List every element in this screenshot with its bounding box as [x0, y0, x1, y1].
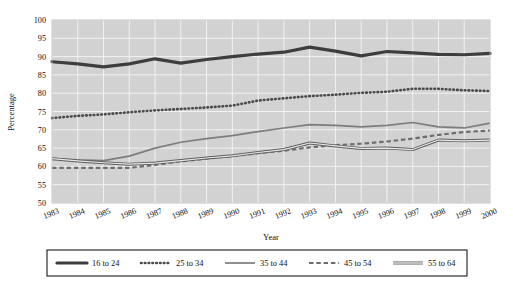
- y-axis-title: Percentage: [6, 93, 16, 131]
- chart-container: 10095908580757065605550 1983198419851986…: [0, 0, 513, 288]
- y-tick-label: 75: [38, 108, 46, 117]
- legend-label: 25 to 34: [176, 259, 204, 268]
- y-tick-label: 65: [38, 144, 46, 153]
- y-tick-label: 100: [34, 16, 46, 25]
- legend-label: 45 to 54: [344, 259, 372, 268]
- x-axis-title: Year: [263, 232, 279, 242]
- y-tick-label: 55: [38, 181, 46, 190]
- y-tick-label: 50: [38, 199, 46, 208]
- y-tick-label: 70: [38, 126, 46, 135]
- legend-label: 55 to 64: [428, 259, 456, 268]
- y-tick-label: 85: [38, 71, 46, 80]
- y-tick-label: 90: [38, 53, 46, 62]
- y-tick-label: 80: [38, 89, 46, 98]
- y-tick-label: 60: [38, 162, 46, 171]
- legend-label: 35 to 44: [260, 259, 288, 268]
- line-chart-figure: 10095908580757065605550 1983198419851986…: [0, 0, 513, 288]
- legend-label: 16 to 24: [92, 259, 120, 268]
- y-tick-label: 95: [38, 34, 46, 43]
